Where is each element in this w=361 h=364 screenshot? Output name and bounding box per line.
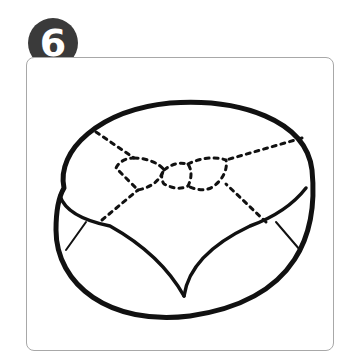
front-seam-right [184, 188, 306, 296]
dotted-seams [96, 132, 302, 222]
outer-outline [56, 102, 313, 317]
side-seam-right [276, 222, 300, 250]
cushion-illustration [0, 0, 361, 364]
front-seam-left [60, 196, 184, 296]
side-seam-left [66, 222, 86, 250]
